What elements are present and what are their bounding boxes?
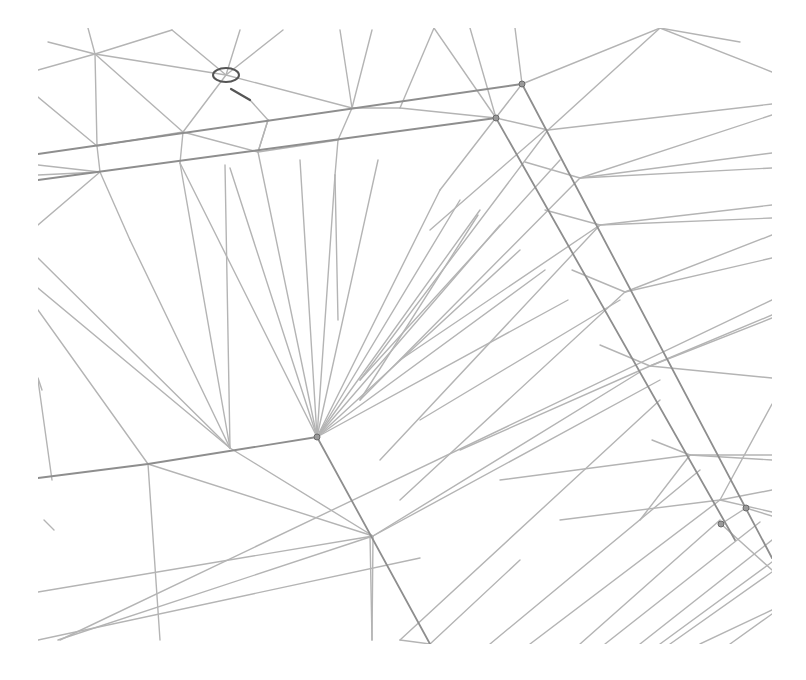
mesh-edge: [38, 380, 52, 480]
breakline-edge: [496, 118, 735, 540]
mesh-edge: [600, 345, 650, 366]
mesh-edge: [95, 30, 172, 54]
mesh-edge: [652, 440, 690, 455]
mesh-edge: [360, 160, 560, 380]
mesh-edge: [580, 168, 772, 178]
mesh-edge: [400, 640, 430, 644]
mesh-edge: [660, 28, 740, 42]
mesh-edge: [515, 28, 522, 84]
mesh-edge: [640, 455, 690, 520]
mesh-edge: [335, 140, 338, 175]
mesh-edge: [230, 168, 317, 437]
mesh-edge: [430, 560, 520, 644]
mesh-edge: [335, 175, 338, 320]
mesh-edge: [373, 372, 640, 536]
breakline-edge: [317, 437, 430, 644]
mesh-edge: [183, 132, 258, 152]
mesh-edge: [440, 84, 522, 190]
mesh-edge: [500, 455, 690, 480]
mesh-edge: [95, 54, 97, 146]
mesh-edge: [400, 28, 434, 108]
mesh-edge: [730, 614, 772, 644]
mesh-edge: [225, 165, 230, 448]
mesh-edge: [360, 130, 548, 380]
mesh-edge: [650, 366, 772, 378]
marker-tick-icon: [231, 89, 250, 100]
mesh-edge: [230, 448, 373, 536]
mesh-edge: [38, 288, 230, 448]
breakline-edge: [38, 84, 522, 154]
mesh-edge: [580, 115, 772, 178]
mesh-edge: [226, 30, 283, 75]
mesh-edge: [400, 400, 660, 640]
mesh-edge: [88, 28, 95, 54]
mesh-edge: [38, 536, 373, 592]
mesh-edge: [250, 100, 268, 120]
mesh-nodes: [314, 81, 749, 527]
mesh-edge: [490, 470, 700, 644]
mesh-edge: [530, 500, 720, 644]
mesh-edge: [400, 292, 625, 500]
mesh-edge: [660, 562, 772, 644]
mesh-edge: [572, 270, 625, 292]
mesh-edge: [258, 120, 268, 152]
mesh-node-right-node-a: [743, 505, 749, 511]
mesh-node-fan-center: [314, 434, 320, 440]
mesh-edge: [226, 75, 352, 108]
mesh-edge: [44, 520, 54, 530]
mesh-edge: [525, 162, 580, 178]
mesh-edge: [720, 404, 772, 500]
mesh-edge: [38, 165, 100, 172]
breakline-edge: [38, 118, 496, 180]
mesh-edge: [38, 54, 95, 70]
mesh-edge: [720, 490, 772, 500]
mesh-node-top-node-a: [519, 81, 525, 87]
breakline-edge: [148, 437, 317, 464]
mesh-edge: [400, 225, 600, 360]
mesh-edge: [548, 28, 660, 130]
mesh-edge: [580, 520, 720, 644]
mesh-edge: [97, 146, 100, 172]
breakline-edge: [522, 84, 772, 558]
mesh-edge: [58, 536, 373, 640]
mesh-edge: [560, 500, 720, 520]
mesh-edge: [580, 153, 772, 178]
mesh-edge: [605, 522, 760, 644]
mesh-node-right-node-b: [718, 521, 724, 527]
mesh-edge: [690, 455, 772, 460]
mesh-edge: [360, 215, 478, 400]
mesh-edge: [660, 28, 772, 72]
mesh-edge: [434, 28, 496, 118]
mesh-edge: [100, 172, 130, 240]
mesh-edge: [372, 536, 373, 640]
mesh-edge: [180, 132, 183, 163]
mesh-edge: [38, 558, 420, 640]
mesh-edge: [522, 28, 660, 84]
mesh-canvas: [0, 0, 806, 680]
mesh-edge: [317, 270, 545, 437]
mesh-node-top-node-b: [493, 115, 499, 121]
mesh-edge: [38, 172, 100, 225]
mesh-edge: [650, 318, 772, 366]
mesh-edge: [180, 163, 317, 437]
mesh-edges: [38, 28, 772, 644]
mesh-edge: [38, 97, 97, 146]
mesh-edge: [183, 75, 226, 132]
mesh-edge: [338, 108, 352, 140]
mesh-edge: [130, 240, 230, 448]
mesh-edge: [148, 464, 373, 536]
breakline-edge: [38, 464, 148, 478]
mesh-edge: [470, 28, 496, 118]
mesh-edge: [48, 42, 95, 54]
mesh-edge: [400, 108, 496, 118]
mesh-edge: [352, 30, 372, 108]
mesh-edge: [340, 30, 352, 108]
